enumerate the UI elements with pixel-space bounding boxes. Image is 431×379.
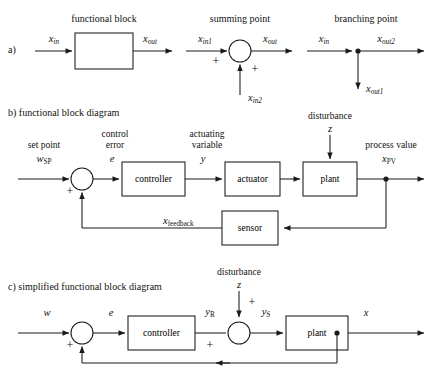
c-setpoint-symbol: w [43, 307, 50, 318]
c-sum2-sign-top: + [249, 296, 256, 309]
c-control-error-symbol: e [109, 307, 114, 318]
b-control-error-caption-2: error [106, 141, 124, 151]
heading-summing-point: summing point [210, 14, 270, 25]
b-setpoint-sub: SP [44, 158, 52, 166]
a-fb-input-label: xin [49, 33, 59, 46]
b-actuating-caption-2: variable [192, 141, 223, 151]
c-output-symbol: x [364, 307, 369, 318]
b-control-error-symbol: e [110, 153, 115, 164]
a-sum-sign-input2: + [252, 63, 259, 76]
b-disturbance-symbol: z [328, 123, 332, 134]
a-fb-output-sub: out [148, 38, 157, 46]
a-branch-output-h-label: xout2 [377, 33, 394, 46]
a-branch-output-h-sub: out2 [382, 38, 395, 46]
b-actuating-symbol: y [201, 153, 206, 164]
heading-branching-point: branching point [334, 14, 397, 25]
b-summing-circle [71, 168, 93, 190]
section-c-label: c) simplified functional block diagram [8, 282, 162, 293]
a-fb-input-sub: in [54, 38, 60, 46]
c-plant-block-label: plant [308, 328, 327, 338]
a-summing-circle [229, 40, 251, 62]
b-controller-block-label: controller [135, 174, 172, 184]
section-a-label: a) [8, 45, 16, 56]
c-disturbance-caption: disturbance [217, 268, 261, 278]
a-sum-input2-label: xin2 [248, 92, 262, 105]
c-controller-out-sub: R [210, 311, 215, 319]
b-sensor-block-label: sensor [238, 223, 262, 233]
b-plant-block-label: plant [321, 174, 340, 184]
c-summing-circle-1 [71, 322, 93, 344]
a-branch-input-sub: in [324, 38, 330, 46]
a-branch-output-v-label: xout1 [366, 83, 383, 96]
b-sum-sign: + [67, 185, 74, 198]
b-control-error-caption-1: control [102, 130, 129, 140]
c-controller-out-symbol: yR [205, 306, 214, 319]
c-sum1-sign: + [67, 339, 74, 352]
a-sum-input1-sub: in1 [203, 38, 212, 46]
b-actuator-block-label: actuator [237, 174, 268, 184]
b-process-value-caption: process value [365, 141, 416, 151]
a-sum-output-sub: out [268, 38, 277, 46]
b-feedback-sub: feedback [168, 220, 194, 228]
block-diagram-figure: functional block summing point branching… [0, 0, 431, 379]
c-disturbance-symbol: z [237, 279, 241, 290]
a-branch-node-dot [355, 48, 360, 53]
b-process-value-sub: PV [387, 158, 396, 166]
b-setpoint-symbol: wSP [36, 153, 51, 166]
a-fb-output-label: xout [143, 33, 157, 46]
a-branch-output-v-sub: out1 [371, 88, 384, 96]
b-disturbance-caption: disturbance [308, 112, 352, 122]
a-sum-input1-label: xin1 [198, 33, 212, 46]
heading-functional-block: functional block [71, 14, 136, 25]
c-plant-in-symbol: yS [262, 306, 271, 319]
a-sum-input2-sub: in2 [253, 97, 262, 105]
c-summing-circle-2 [228, 322, 250, 344]
b-setpoint-var: w [36, 153, 43, 164]
a-branch-input-label: xin [319, 33, 329, 46]
b-process-value-symbol: xPV [382, 153, 396, 166]
c-controller-block-label: controller [143, 328, 180, 338]
c-sum2-sign-left: + [207, 339, 214, 352]
section-b-label: b) functional block diagram [8, 108, 119, 119]
c-plant-in-sub: S [266, 311, 270, 319]
b-feedback-symbol: xfeedback [163, 215, 194, 228]
a-sum-output-label: xout [263, 33, 277, 46]
a-functional-block-rect [75, 33, 133, 69]
a-sum-sign-input1: + [213, 55, 220, 68]
b-setpoint-caption: set point [28, 141, 60, 151]
b-actuating-caption-1: actuating [190, 130, 225, 140]
